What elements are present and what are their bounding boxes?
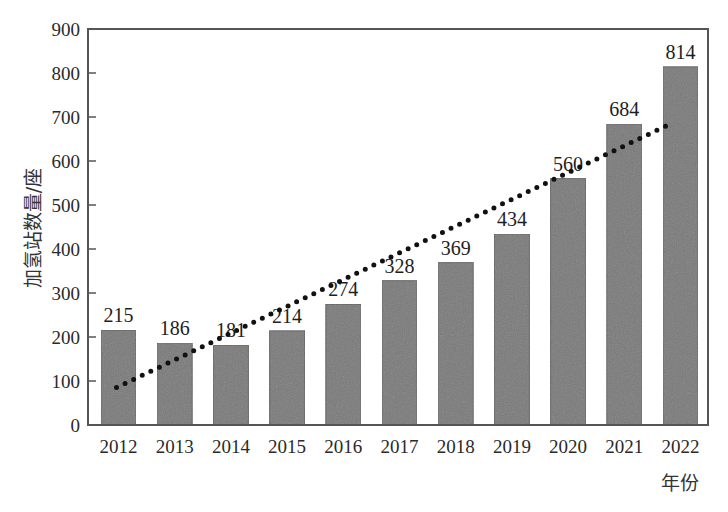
bar-2019 — [494, 234, 529, 425]
x-tick-label: 2020 — [549, 436, 587, 457]
bar-2015 — [270, 331, 305, 425]
bar-2022 — [663, 67, 698, 425]
x-tick-label: 2016 — [324, 436, 362, 457]
x-tick-label: 2015 — [268, 436, 306, 457]
x-tick-label: 2013 — [156, 436, 194, 457]
y-tick-label: 900 — [52, 19, 81, 40]
y-tick-label: 0 — [71, 415, 81, 436]
y-axis-label: 加氢站数量/座 — [22, 168, 44, 288]
bar-2021 — [607, 124, 642, 425]
y-tick-label: 800 — [52, 63, 81, 84]
y-tick-label: 400 — [52, 239, 81, 260]
x-tick-label: 2017 — [381, 436, 419, 457]
y-tick-label: 100 — [52, 371, 81, 392]
x-tick-label: 2022 — [662, 436, 700, 457]
bar-2014 — [213, 345, 248, 425]
value-label: 434 — [497, 208, 527, 230]
bar-2018 — [438, 263, 473, 425]
value-label: 684 — [609, 98, 639, 120]
y-tick-label: 600 — [52, 151, 81, 172]
x-tick-label: 2012 — [100, 436, 138, 457]
y-tick-label: 700 — [52, 107, 81, 128]
bar-2020 — [551, 179, 586, 425]
value-label: 186 — [160, 317, 190, 339]
value-label: 274 — [328, 278, 358, 300]
y-tick-label: 300 — [52, 283, 81, 304]
bar-chart: 加氢站数量/座 0100200300400500600700800900 215… — [0, 0, 728, 512]
y-tick-label: 200 — [52, 327, 81, 348]
y-axis-ticks: 0100200300400500600700800900 — [52, 19, 97, 436]
x-tick-label: 2014 — [212, 436, 251, 457]
x-tick-label: 2019 — [493, 436, 531, 457]
value-label: 814 — [666, 41, 696, 63]
y-tick-label: 500 — [52, 195, 81, 216]
x-axis-label: 年份 — [661, 472, 699, 494]
value-label: 560 — [553, 153, 583, 175]
x-tick-label: 2021 — [605, 436, 643, 457]
value-label: 215 — [104, 304, 134, 326]
bars — [101, 67, 698, 425]
bar-2017 — [382, 281, 417, 425]
y-axis-title: 加氢站数量/座 — [22, 168, 44, 288]
value-label: 369 — [441, 237, 471, 259]
x-axis-ticks: 2012201320142015201620172018201920202021… — [100, 436, 700, 457]
x-tick-label: 2018 — [437, 436, 475, 457]
bar-2012 — [101, 330, 136, 425]
bar-2016 — [326, 304, 361, 425]
